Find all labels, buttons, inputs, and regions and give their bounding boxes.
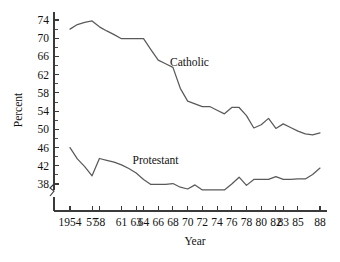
x-axis-title: Year <box>184 235 205 247</box>
y-tick-label: 62 <box>38 69 50 81</box>
series-annotation-group: CatholicProtestant <box>133 56 209 166</box>
y-tick-label-group: 74706662585450464238 <box>38 14 50 190</box>
y-axis-title: Percent <box>12 92 24 127</box>
y-tick-label: 46 <box>38 142 50 154</box>
x-tick-label: 85 <box>292 216 304 228</box>
series-label-protestant: Protestant <box>133 154 180 166</box>
line-chart: 74706662585450464238 1954575861636466687… <box>0 0 340 262</box>
x-tick-label-group: 19545758616364666870727476788082838588 <box>59 216 327 228</box>
series-line-protestant <box>70 148 320 190</box>
x-tick-label: 68 <box>167 216 179 228</box>
x-tick-label: 78 <box>241 216 253 228</box>
y-tick-label: 54 <box>38 105 50 117</box>
series-label-catholic: Catholic <box>170 56 209 68</box>
x-tick-label: 61 <box>116 216 128 228</box>
series-group <box>70 21 320 190</box>
x-tick-label: 72 <box>197 216 209 228</box>
x-tick-label: 76 <box>226 216 238 228</box>
y-tick-label: 66 <box>38 50 50 62</box>
y-tick-label: 74 <box>38 14 50 26</box>
y-tick-label: 58 <box>38 87 50 99</box>
x-tick-group <box>70 206 320 211</box>
y-tick-label: 70 <box>38 32 50 44</box>
chart-container: 74706662585450464238 1954575861636466687… <box>0 0 340 262</box>
y-tick-label: 50 <box>38 123 50 135</box>
x-tick-label: 1954 <box>59 216 82 228</box>
y-tick-label: 42 <box>38 160 50 172</box>
x-tick-label: 80 <box>255 216 267 228</box>
x-tick-label: 74 <box>211 216 223 228</box>
x-tick-label: 83 <box>277 216 289 228</box>
x-tick-label: 88 <box>314 216 326 228</box>
x-tick-label: 58 <box>94 216 106 228</box>
x-tick-label: 66 <box>152 216 164 228</box>
series-line-catholic <box>70 21 320 135</box>
x-tick-label: 64 <box>138 216 150 228</box>
y-tick-label: 38 <box>38 178 50 190</box>
y-axis-break-icon <box>50 184 54 196</box>
x-tick-label: 70 <box>182 216 194 228</box>
